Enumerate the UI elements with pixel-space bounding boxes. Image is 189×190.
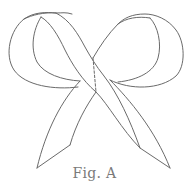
right-loop-top-fold: [118, 17, 150, 24]
right-tail-outer-edge: [110, 80, 170, 168]
left-loop-outer-edge: [9, 13, 78, 88]
left-tail-outer-edge: [37, 81, 80, 168]
right-loop-outer-edge: [110, 14, 183, 87]
right-band-left-edge: [93, 24, 118, 58]
left-tail-inner-edge: [70, 92, 96, 145]
bow-figure: Fig. A: [0, 0, 189, 190]
left-loop-top-fold: [24, 13, 72, 19]
left-band-inner-edge: [41, 17, 140, 148]
right-loop-inner-edge: [118, 18, 160, 82]
left-loop-inner-edge: [33, 17, 80, 81]
bow-drawing: [0, 0, 189, 190]
figure-caption: Fig. A: [0, 165, 189, 181]
